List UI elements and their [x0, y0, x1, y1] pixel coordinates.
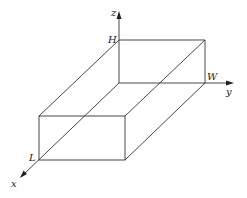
front-face: [39, 116, 125, 160]
height-label: H: [107, 34, 117, 45]
length-label: L: [28, 152, 36, 163]
top-right-receding-edge: [125, 40, 205, 116]
top-left-receding-edge: [39, 40, 119, 116]
z-axis-label: z: [110, 7, 117, 18]
y-axis-arrow-icon: [226, 81, 234, 86]
x-axis-label: x: [11, 178, 17, 189]
box-diagram: z y x H W L: [0, 0, 247, 198]
axes: [20, 11, 234, 178]
labels: z y x H W L: [11, 7, 232, 189]
box: [39, 40, 205, 160]
width-label: W: [207, 71, 218, 82]
bottom-right-receding-edge: [125, 83, 205, 160]
z-axis-arrow-icon: [117, 11, 122, 19]
y-axis-label: y: [225, 86, 232, 97]
